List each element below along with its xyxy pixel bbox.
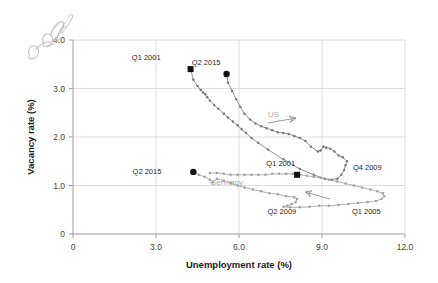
x-tick-label: 6.0 bbox=[233, 242, 245, 252]
data-point bbox=[344, 164, 347, 167]
annotation-label: Q2 2015 bbox=[133, 167, 162, 176]
data-point bbox=[366, 201, 369, 204]
data-point bbox=[353, 184, 356, 187]
y-tick-label: 3.0 bbox=[53, 84, 65, 94]
data-point bbox=[278, 173, 281, 176]
data-point bbox=[209, 172, 212, 175]
data-point bbox=[209, 99, 212, 102]
data-point bbox=[293, 135, 296, 138]
data-point bbox=[271, 129, 274, 132]
data-point bbox=[227, 116, 230, 119]
data-point bbox=[299, 168, 302, 171]
data-point bbox=[203, 176, 206, 179]
x-tick-label: 12.0 bbox=[397, 242, 414, 252]
data-point bbox=[257, 142, 260, 145]
annotation-de-q1-2005: Q1 2005 bbox=[352, 207, 381, 216]
annotation-label: Q1 2005 bbox=[352, 207, 381, 216]
data-point bbox=[236, 124, 239, 127]
data-point bbox=[328, 205, 331, 208]
x-tick-label: 9.0 bbox=[316, 242, 328, 252]
data-point bbox=[217, 108, 220, 111]
data-point bbox=[250, 174, 253, 177]
annotation-label: US bbox=[268, 110, 279, 119]
annotation-de-q2-2009: Q2 2009 bbox=[267, 207, 296, 216]
data-point bbox=[322, 145, 325, 148]
data-point bbox=[342, 156, 345, 159]
annotation-us-series-label: US bbox=[268, 110, 279, 119]
data-point bbox=[232, 120, 235, 123]
data-point bbox=[216, 172, 219, 175]
marker-square bbox=[294, 172, 300, 178]
data-point bbox=[383, 195, 386, 198]
data-point bbox=[236, 174, 239, 177]
vacancy-unemployment-chart: 03.06.09.012.0 01.02.03.04.0 Q1 2001Q2 2… bbox=[0, 0, 438, 283]
data-point bbox=[369, 188, 372, 191]
data-point bbox=[245, 132, 248, 135]
data-point bbox=[333, 150, 336, 153]
data-point bbox=[260, 125, 263, 128]
data-point bbox=[290, 203, 293, 206]
data-point bbox=[254, 122, 257, 125]
data-point bbox=[235, 98, 238, 101]
data-point bbox=[318, 205, 321, 208]
data-point bbox=[343, 169, 346, 172]
y-tick-label: 1.0 bbox=[53, 181, 65, 191]
data-point bbox=[271, 173, 274, 176]
data-point bbox=[282, 132, 285, 135]
data-point bbox=[380, 198, 383, 201]
data-point bbox=[347, 203, 350, 206]
data-point bbox=[312, 176, 315, 179]
data-point bbox=[204, 93, 207, 96]
data-point bbox=[260, 190, 263, 193]
data-point bbox=[200, 89, 203, 92]
data-point bbox=[257, 174, 260, 177]
data-point bbox=[267, 148, 270, 151]
annotation-label: Q1 2001 bbox=[266, 159, 295, 168]
data-point bbox=[317, 150, 320, 153]
marker-circle bbox=[223, 71, 229, 77]
data-point bbox=[340, 174, 343, 177]
data-point bbox=[243, 186, 246, 189]
chart-canvas: 03.06.09.012.0 01.02.03.04.0 Q1 2001Q2 2… bbox=[0, 0, 438, 283]
data-point bbox=[268, 192, 271, 195]
data-point bbox=[296, 198, 299, 201]
data-point bbox=[325, 146, 328, 149]
data-point bbox=[285, 173, 288, 176]
data-point bbox=[328, 178, 331, 181]
data-point bbox=[229, 174, 232, 177]
data-point bbox=[227, 81, 230, 84]
data-point bbox=[375, 200, 378, 203]
data-point bbox=[288, 133, 291, 136]
data-point bbox=[213, 104, 216, 107]
data-point bbox=[306, 175, 309, 178]
marker-square bbox=[188, 66, 194, 72]
data-point bbox=[276, 131, 279, 134]
data-point bbox=[292, 173, 295, 176]
data-point bbox=[336, 180, 339, 183]
data-point bbox=[276, 193, 279, 196]
data-point bbox=[357, 202, 360, 205]
data-point bbox=[285, 195, 288, 198]
data-point bbox=[192, 79, 195, 82]
x-tick-label: 3.0 bbox=[150, 242, 162, 252]
data-point bbox=[264, 174, 267, 177]
data-point bbox=[250, 137, 253, 140]
annotation-label: Q2 2015 bbox=[192, 58, 221, 67]
data-point bbox=[243, 112, 246, 115]
data-point bbox=[319, 149, 322, 152]
data-point bbox=[299, 206, 302, 209]
data-point bbox=[308, 206, 311, 209]
data-point bbox=[361, 186, 364, 189]
annotation-label: Q1 2001 bbox=[132, 53, 161, 62]
annotation-label: Germany bbox=[210, 178, 243, 187]
data-point bbox=[202, 91, 205, 94]
data-point bbox=[304, 140, 307, 143]
data-point bbox=[241, 128, 244, 131]
data-point bbox=[336, 177, 339, 180]
annotation-label: Q2 2009 bbox=[267, 207, 296, 216]
y-tick-label: 2.0 bbox=[53, 132, 65, 142]
data-point bbox=[252, 188, 255, 191]
data-point bbox=[319, 176, 322, 179]
data-point bbox=[243, 174, 246, 177]
data-point bbox=[198, 174, 201, 177]
